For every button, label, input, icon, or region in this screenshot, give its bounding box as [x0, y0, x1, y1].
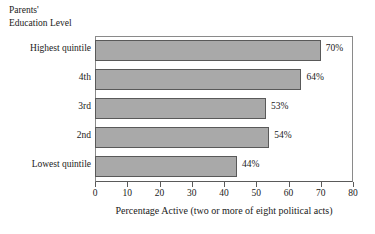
bar-row: 70% [95, 36, 353, 65]
bar-value-label: 53% [271, 101, 288, 111]
x-tick-label: 50 [241, 188, 271, 198]
y-axis-group-title: Parents' Education Level [9, 4, 72, 29]
bar-value-label: 64% [306, 72, 323, 82]
x-tick-mark [127, 182, 128, 187]
bars-layer: 70%64%53%54%44% [95, 36, 353, 181]
bar-row: 53% [95, 94, 353, 123]
x-tick-label: 80 [338, 188, 368, 198]
x-tick-mark [353, 182, 354, 187]
bar-row: 44% [95, 152, 353, 181]
category-label: 3rd [78, 101, 91, 111]
x-tick-mark [192, 182, 193, 187]
category-label: Lowest quintile [32, 159, 91, 169]
x-tick-label: 0 [80, 188, 110, 198]
bar-chart-figure: Parents' Education Level 70%64%53%54%44%… [0, 0, 375, 234]
category-label: 2nd [77, 130, 91, 140]
x-tick-mark [224, 182, 225, 187]
x-tick-label: 70 [306, 188, 336, 198]
x-tick-mark [95, 182, 96, 187]
y-axis-group-title-line-1: Parents' [9, 4, 72, 17]
x-axis-label: Percentage Active (two or more of eight … [95, 205, 353, 216]
x-tick-mark [256, 182, 257, 187]
x-tick-label: 30 [177, 188, 207, 198]
x-tick-label: 10 [112, 188, 142, 198]
bar-row: 64% [95, 65, 353, 94]
x-tick-mark [289, 182, 290, 187]
bar-row: 54% [95, 123, 353, 152]
x-tick-label: 20 [145, 188, 175, 198]
x-tick-label: 60 [274, 188, 304, 198]
bar-value-label: 54% [274, 130, 291, 140]
y-axis-group-title-line-2: Education Level [9, 17, 72, 30]
bar [95, 69, 301, 90]
bar [95, 156, 237, 177]
bar [95, 98, 266, 119]
x-tick-label: 40 [209, 188, 239, 198]
bar [95, 127, 269, 148]
x-tick-mark [321, 182, 322, 187]
x-tick-mark [160, 182, 161, 187]
bar-value-label: 44% [242, 159, 259, 169]
bar [95, 40, 321, 61]
bar-value-label: 70% [326, 43, 343, 53]
category-label: Highest quintile [30, 43, 91, 53]
category-label: 4th [79, 72, 91, 82]
